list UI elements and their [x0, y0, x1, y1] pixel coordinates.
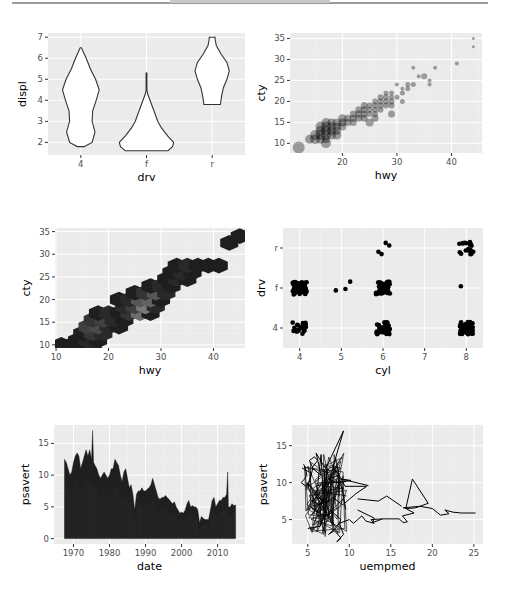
point [459, 284, 464, 289]
point [304, 280, 309, 285]
y-tick-label: 10 [276, 478, 287, 488]
point [389, 91, 394, 96]
x-tick-label: 30 [156, 352, 167, 362]
x-axis-title: date [137, 560, 162, 573]
y-axis-title: cty [255, 84, 268, 101]
point [469, 250, 474, 255]
point [411, 82, 416, 87]
point [468, 320, 473, 325]
x-tick-label: 15 [385, 548, 396, 558]
point [417, 74, 421, 78]
point [361, 102, 368, 109]
x-tick-label: 30 [391, 157, 402, 167]
x-tick-label: 2000 [171, 548, 193, 558]
y-tick-label: 10 [39, 340, 50, 350]
y-axis-title: psavert [19, 463, 32, 505]
x-tick-label: 10 [344, 548, 355, 558]
point [388, 111, 395, 118]
point [344, 115, 351, 122]
x-axis-title: cyl [375, 364, 391, 377]
point [295, 284, 300, 289]
y-tick-label: 5 [282, 515, 287, 525]
x-tick-label: 4 [78, 159, 83, 169]
x-tick-label: 20 [337, 157, 348, 167]
x-axis-title: hwy [139, 364, 162, 377]
point [343, 287, 348, 292]
point [433, 66, 437, 70]
x-tick-label: 40 [208, 352, 219, 362]
panel-path: 51015202551015uempmedpsavert [257, 425, 483, 573]
x-tick-label: 25 [468, 548, 479, 558]
y-tick-label: 4 [38, 95, 43, 105]
panel-area: 19701980199020002010051015datepsavert [19, 425, 245, 573]
x-tick-label: 6 [380, 352, 385, 362]
x-axis-title: drv [137, 171, 156, 184]
point [301, 321, 306, 326]
point [372, 98, 378, 104]
point [455, 62, 459, 66]
point [411, 66, 415, 70]
x-tick-label: 1980 [99, 548, 121, 558]
y-tick-label: 10 [38, 470, 49, 480]
point [428, 78, 432, 82]
panel-violin: 4fr234567drvdispl [16, 32, 245, 184]
x-tick-label: f [145, 159, 149, 169]
point [383, 322, 388, 327]
x-tick-label: 1970 [63, 548, 85, 558]
point [405, 82, 410, 87]
point [395, 83, 399, 87]
point [468, 240, 473, 245]
x-axis-title: hwy [375, 169, 398, 182]
y-tick-label: 5 [44, 502, 49, 512]
y-axis-title: psavert [257, 463, 270, 505]
point [301, 288, 306, 293]
point [384, 91, 389, 96]
point [379, 327, 384, 332]
point [386, 291, 391, 296]
y-tick-label: 15 [38, 438, 49, 448]
y-tick-label: 10 [274, 138, 285, 148]
point [303, 325, 308, 330]
x-tick-label: 5 [305, 548, 310, 558]
x-tick-label: 20 [103, 352, 114, 362]
y-tick-label: 30 [39, 249, 50, 259]
y-tick-label: 2 [38, 137, 43, 147]
point [421, 73, 427, 79]
x-tick-label: 40 [446, 157, 457, 167]
point [372, 115, 379, 122]
x-tick-label: 2010 [207, 548, 229, 558]
point [293, 142, 305, 154]
x-tick-label: 4 [297, 352, 302, 362]
point [472, 37, 475, 40]
point [378, 280, 383, 285]
y-tick-label: 20 [39, 295, 50, 305]
point [394, 95, 399, 100]
panel-hexbin: 10203040101520253035hwycty [20, 227, 249, 377]
point [400, 91, 405, 96]
point [291, 329, 296, 334]
point [378, 94, 384, 100]
point [298, 326, 303, 331]
x-tick-label: r [210, 159, 214, 169]
figure-canvas: 4fr234567drvdispl 203040101520253035hwyc… [0, 0, 508, 605]
y-tick-label: 5 [38, 74, 43, 84]
point [458, 323, 463, 328]
point [321, 138, 331, 148]
point [388, 327, 393, 332]
point [382, 289, 387, 294]
y-tick-label: 15 [274, 117, 285, 127]
point [334, 288, 339, 293]
point [332, 131, 341, 140]
point [348, 279, 353, 284]
point [375, 329, 380, 334]
y-tick-label: 0 [44, 534, 49, 544]
y-tick-label: 25 [274, 75, 285, 85]
point [316, 122, 326, 132]
point [297, 292, 302, 297]
y-tick-label: 35 [39, 227, 50, 237]
point [400, 99, 405, 104]
y-tick-label: 7 [38, 32, 43, 42]
point [400, 87, 404, 91]
x-tick-label: 7 [422, 352, 427, 362]
y-tick-label: 35 [274, 33, 285, 43]
